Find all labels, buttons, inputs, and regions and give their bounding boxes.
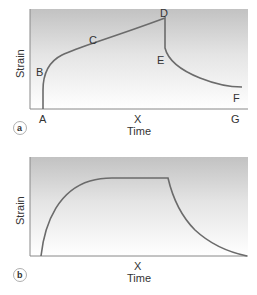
point-label-c: C <box>89 34 97 46</box>
point-label-d: D <box>160 7 168 19</box>
x-axis-label-b: Time <box>127 272 151 284</box>
tick-label-x-b: X <box>134 260 142 272</box>
panel-b: X Time Strain b <box>14 157 249 284</box>
figure: B C D E F A X G Time Strain a X Time Str… <box>0 0 257 295</box>
point-label-f: F <box>233 92 240 104</box>
plot-area-b <box>30 157 248 256</box>
panel-badge-a: a <box>14 122 27 135</box>
tick-label-x: X <box>134 113 142 125</box>
panel-badge-b: b <box>14 269 27 282</box>
x-axis-label-a: Time <box>127 125 151 137</box>
y-axis-label-a: Strain <box>14 49 26 78</box>
tick-label-a: A <box>39 113 47 125</box>
tick-label-g: G <box>231 113 240 125</box>
point-label-b: B <box>36 66 43 78</box>
y-axis-label-b: Strain <box>14 196 26 225</box>
plot-area-a <box>30 9 248 109</box>
point-label-e: E <box>157 54 164 66</box>
panel-a: B C D E F A X G Time Strain a <box>14 7 249 137</box>
svg-text:b: b <box>17 270 23 280</box>
